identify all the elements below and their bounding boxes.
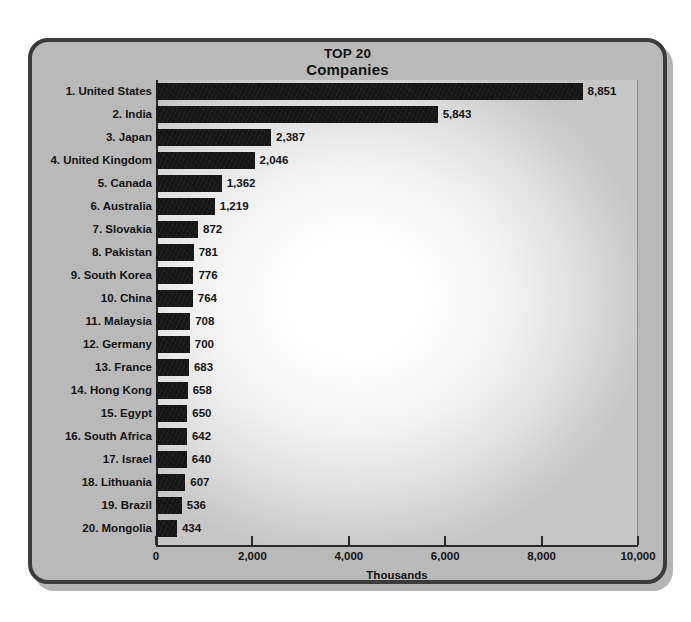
bar-category-label: 14. Hong Kong [32, 379, 152, 402]
chart-title-line-1: TOP 20 [32, 47, 663, 62]
bar-value-label: 683 [194, 356, 213, 379]
bar-value-label: 708 [195, 310, 214, 333]
bar-category-label: 19. Brazil [32, 494, 152, 517]
bar-category-label: 6. Australia [32, 195, 152, 218]
bar-row: 7. Slovakia872 [32, 218, 667, 241]
bar [156, 474, 185, 491]
x-axis-tick-label: 2,000 [238, 550, 267, 562]
bar-row: 18. Lithuania607 [32, 471, 667, 494]
bar-value-label: 2,387 [276, 126, 305, 149]
bar-category-label: 4. United Kingdom [32, 149, 152, 172]
bar-category-label: 5. Canada [32, 172, 152, 195]
bar-row: 10. China764 [32, 287, 667, 310]
bar [156, 428, 187, 445]
bar [156, 106, 438, 123]
bar-category-label: 1. United States [32, 80, 152, 103]
bar-category-label: 18. Lithuania [32, 471, 152, 494]
bar-category-label: 9. South Korea [32, 264, 152, 287]
bar-category-label: 8. Pakistan [32, 241, 152, 264]
bar [156, 405, 187, 422]
bar-row: 11. Malaysia708 [32, 310, 667, 333]
bar-category-label: 12. Germany [32, 333, 152, 356]
bar [156, 520, 177, 537]
chart-title: TOP 20 Companies [32, 47, 663, 78]
bar [156, 244, 194, 261]
bar-row: 6. Australia1,219 [32, 195, 667, 218]
bar [156, 267, 193, 284]
bar-value-label: 764 [198, 287, 217, 310]
bar-category-label: 20. Mongolia [32, 517, 152, 540]
bar [156, 359, 189, 376]
bar-row: 15. Egypt650 [32, 402, 667, 425]
x-axis-line [156, 545, 638, 547]
bar [156, 175, 222, 192]
bar [156, 382, 188, 399]
bar-category-label: 7. Slovakia [32, 218, 152, 241]
bar-category-label: 16. South Africa [32, 425, 152, 448]
bar-value-label: 658 [193, 379, 212, 402]
bar-row: 9. South Korea776 [32, 264, 667, 287]
bar-category-label: 10. China [32, 287, 152, 310]
bar [156, 451, 187, 468]
bar [156, 290, 193, 307]
bar-row: 5. Canada1,362 [32, 172, 667, 195]
bar [156, 313, 190, 330]
bar-value-label: 8,851 [588, 80, 617, 103]
bar-row: 14. Hong Kong658 [32, 379, 667, 402]
bar-value-label: 776 [198, 264, 217, 287]
bar-value-label: 607 [190, 471, 209, 494]
bar [156, 198, 215, 215]
bar-value-label: 434 [182, 517, 201, 540]
bar-row: 12. Germany700 [32, 333, 667, 356]
bar-category-label: 13. France [32, 356, 152, 379]
bar-row: 17. Israel640 [32, 448, 667, 471]
chart-panel: TOP 20 Companies 02,0004,0006,0008,00010… [28, 38, 667, 584]
bar-value-label: 2,046 [260, 149, 289, 172]
x-axis-tick-label: 10,000 [620, 550, 655, 562]
bar-row: 1. United States8,851 [32, 80, 667, 103]
bar-row: 16. South Africa642 [32, 425, 667, 448]
bar-value-label: 5,843 [443, 103, 472, 126]
bar [156, 336, 190, 353]
bar-row: 4. United Kingdom2,046 [32, 149, 667, 172]
bar-value-label: 640 [192, 448, 211, 471]
bar-value-label: 700 [195, 333, 214, 356]
x-axis-tick-label: 4,000 [334, 550, 363, 562]
bar [156, 83, 583, 100]
bar-value-label: 536 [187, 494, 206, 517]
bar-value-label: 650 [192, 402, 211, 425]
bar-row: 20. Mongolia434 [32, 517, 667, 540]
x-axis-tick-label: 6,000 [431, 550, 460, 562]
x-axis-tick-label: 0 [153, 550, 159, 562]
bar-row: 2. India5,843 [32, 103, 667, 126]
bar [156, 152, 255, 169]
bar-value-label: 642 [192, 425, 211, 448]
bar [156, 497, 182, 514]
bar-row: 19. Brazil536 [32, 494, 667, 517]
bar [156, 129, 271, 146]
bar-value-label: 781 [199, 241, 218, 264]
bar [156, 221, 198, 238]
bar-category-label: 3. Japan [32, 126, 152, 149]
x-axis-tick-label: 8,000 [527, 550, 556, 562]
bar-row: 8. Pakistan781 [32, 241, 667, 264]
bar-value-label: 1,219 [220, 195, 249, 218]
bar-category-label: 17. Israel [32, 448, 152, 471]
bar-value-label: 872 [203, 218, 222, 241]
bar-value-label: 1,362 [227, 172, 256, 195]
bar-row: 13. France683 [32, 356, 667, 379]
bar-category-label: 15. Egypt [32, 402, 152, 425]
bar-category-label: 2. India [32, 103, 152, 126]
chart-title-line-2: Companies [32, 62, 663, 78]
bar-category-label: 11. Malaysia [32, 310, 152, 333]
bar-row: 3. Japan2,387 [32, 126, 667, 149]
x-axis-title: Thousands [156, 569, 638, 581]
